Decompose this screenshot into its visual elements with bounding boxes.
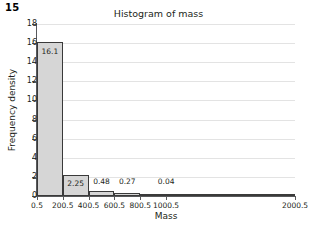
gridline xyxy=(37,158,295,159)
y-axis-ticks: 181614121086420 xyxy=(0,0,37,227)
y-tick-label: 18 xyxy=(7,20,37,28)
bar-value-label: 16.1 xyxy=(42,47,59,56)
bar-value-label: 0.27 xyxy=(119,177,136,186)
x-axis-title: Mass xyxy=(37,211,295,221)
x-tick-mark xyxy=(166,196,167,200)
gridline xyxy=(37,100,295,101)
x-tick-mark xyxy=(63,196,64,200)
x-tick-mark xyxy=(140,196,141,200)
bar-value-label: 0.48 xyxy=(93,177,110,186)
gridline xyxy=(37,62,295,63)
histogram-figure: Histogram of mass 181614121086420 0.5200… xyxy=(0,0,317,227)
x-tick-label: 2000.5 xyxy=(282,201,308,210)
gridline xyxy=(37,139,295,140)
x-tick-mark xyxy=(295,196,296,200)
gridline xyxy=(37,120,295,121)
x-tick-label: 1000.5 xyxy=(153,201,179,210)
y-axis-title: Frequency density xyxy=(7,45,17,175)
x-tick-label: 200.5 xyxy=(52,201,73,210)
x-tick-label: 0.5 xyxy=(31,201,43,210)
x-tick-mark xyxy=(114,196,115,200)
gridline xyxy=(37,81,295,82)
histogram-bar xyxy=(37,42,63,196)
x-tick-mark xyxy=(89,196,90,200)
x-tick-label: 400.5 xyxy=(78,201,99,210)
x-tick-label: 800.5 xyxy=(129,201,150,210)
bar-value-label: 0.04 xyxy=(158,177,175,186)
y-tick-label: 0 xyxy=(7,192,37,200)
bar-value-label: 2.25 xyxy=(67,179,84,188)
plot-area xyxy=(37,24,295,196)
gridline xyxy=(37,43,295,44)
x-tick-mark xyxy=(37,196,38,200)
chart-title: Histogram of mass xyxy=(0,8,317,19)
gridline xyxy=(37,24,295,25)
x-tick-label: 600.5 xyxy=(104,201,125,210)
